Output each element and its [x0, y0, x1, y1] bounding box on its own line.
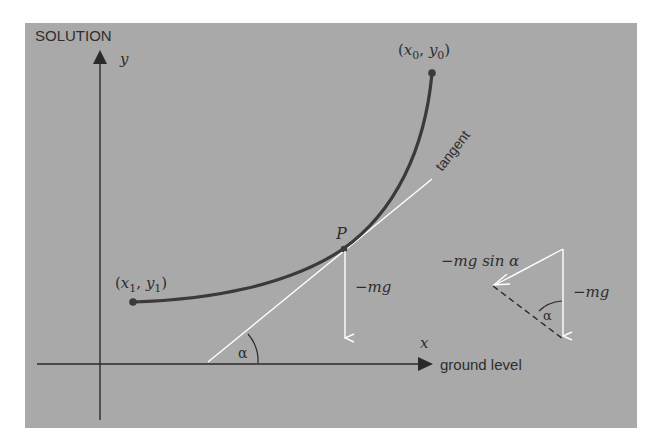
triangle-alpha-label: α [543, 308, 552, 323]
start-point-label: (x0, y0) [398, 41, 450, 62]
triangle-weight-label: −mg [573, 283, 609, 301]
brachistochrone-diagram: SOLUTION y x ground level tangent α (x0,… [0, 0, 657, 445]
triangle-component-arrowhead-icon [494, 274, 510, 285]
x-axis: x ground level [37, 334, 522, 373]
tangent-line [208, 179, 432, 362]
y-axis-arrowhead-icon [93, 50, 107, 64]
force-triangle: α −mg −mg sin α [441, 249, 609, 339]
descent-curve [133, 73, 432, 302]
end-point-marker [129, 298, 137, 306]
weight-component-label: −mg sin α [441, 252, 519, 270]
ground-level-label: ground level [440, 356, 522, 373]
x-axis-arrowhead-icon [418, 357, 433, 371]
point-p-marker [341, 246, 347, 252]
angle-alpha-label: α [238, 345, 248, 361]
start-point-marker [428, 69, 436, 77]
end-point-label: (x1, y1) [115, 274, 167, 295]
weight-vector-label: −mg [355, 278, 391, 296]
y-axis-label: y [119, 50, 129, 68]
triangle-dashed-side [493, 286, 563, 339]
point-p-label: P [335, 224, 347, 243]
angle-alpha-arc [248, 334, 258, 363]
x-axis-label: x [420, 334, 429, 352]
tangent-label: tangent [432, 127, 473, 174]
figure-title: SOLUTION [35, 27, 112, 44]
